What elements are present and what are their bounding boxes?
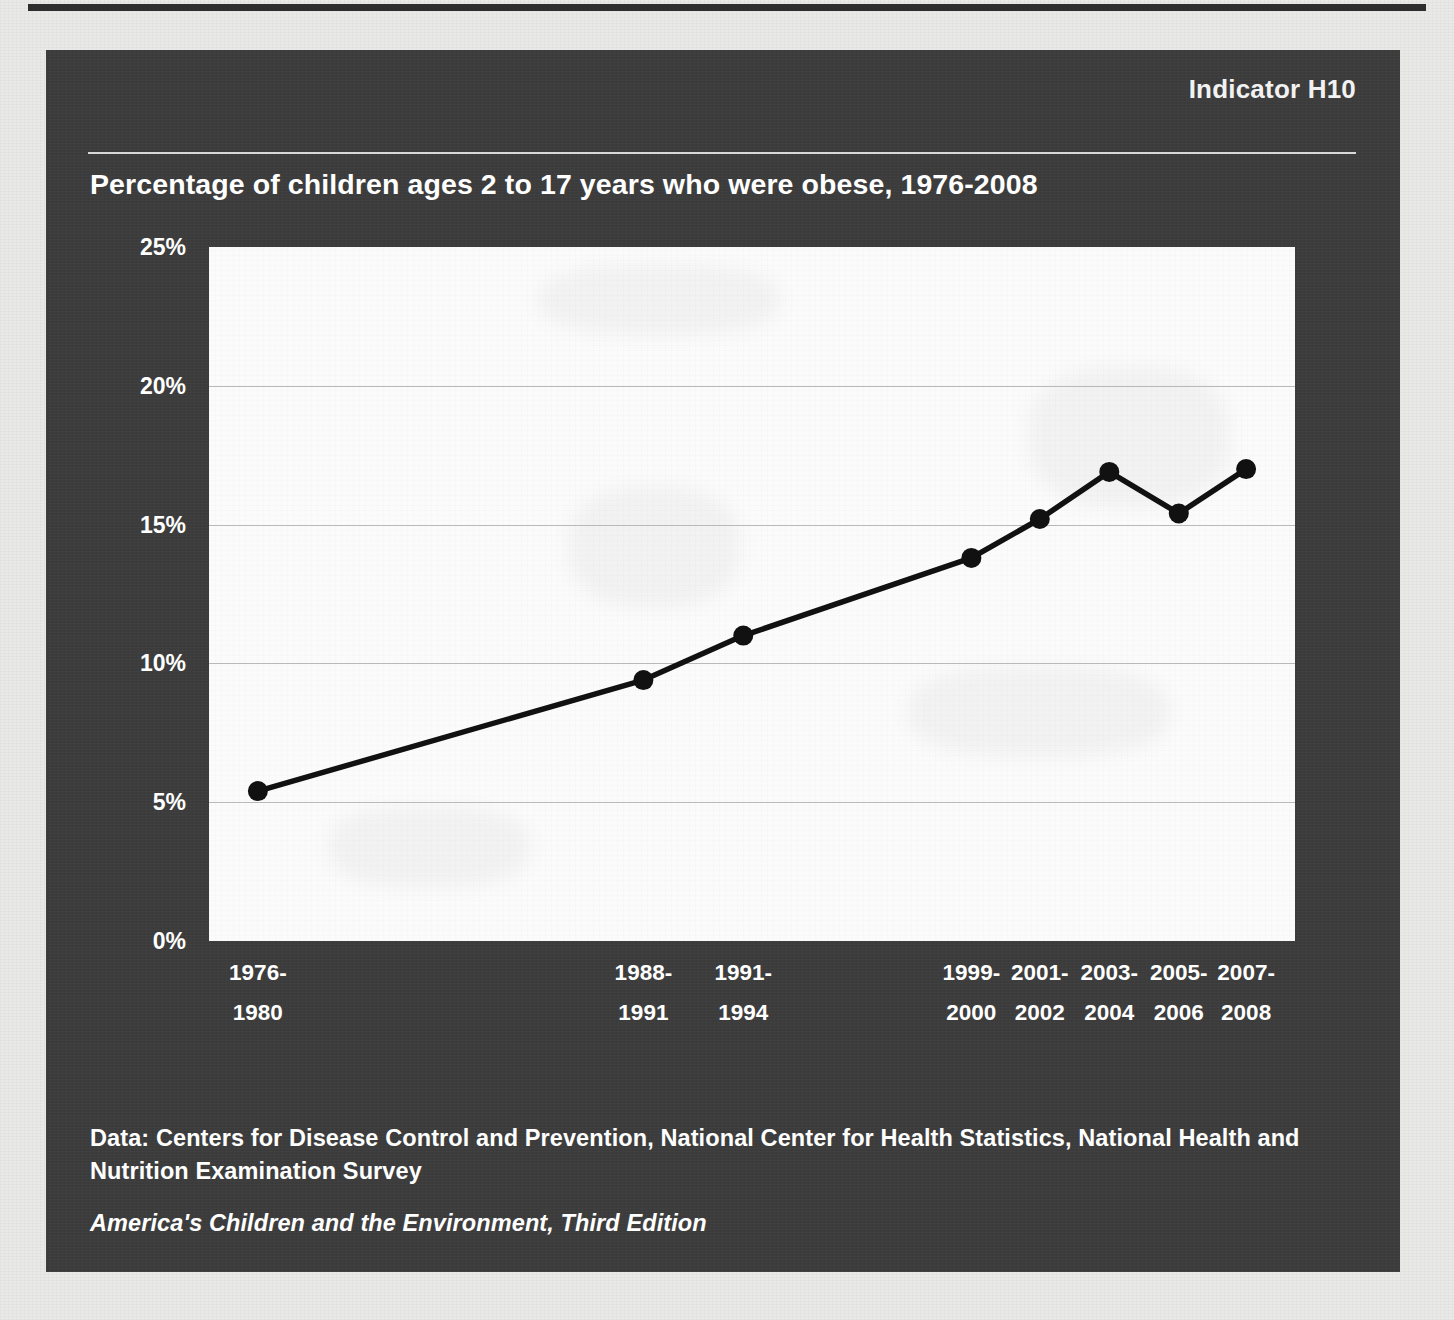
data-point-marker: 2003-2004: 16.9%	[1099, 462, 1119, 482]
x-tick-label: 1999-2000	[943, 953, 1001, 1033]
x-tick-label-line: 2006	[1150, 993, 1208, 1033]
x-tick-label: 2001-2002	[1011, 953, 1069, 1033]
x-tick-label-line: 1994	[715, 993, 773, 1033]
x-tick-label: 1976-1980	[229, 953, 287, 1033]
series-plot: 1976-1980: 5.4%1988-1991: 9.4%1991-1994:…	[209, 247, 1295, 941]
x-tick-label: 2005-2006	[1150, 953, 1208, 1033]
x-tick-label-line: 2002	[1011, 993, 1069, 1033]
data-point-marker: 2001-2002: 15.2%	[1030, 509, 1050, 529]
y-tick-label: 15%	[140, 511, 186, 538]
x-tick-label-line: 1988-	[615, 953, 673, 993]
x-tick-label-line: 2000	[943, 993, 1001, 1033]
x-tick-label-line: 2004	[1081, 993, 1139, 1033]
x-tick-label: 2003-2004	[1081, 953, 1139, 1033]
y-tick-label: 20%	[140, 372, 186, 399]
y-tick-label: 10%	[140, 650, 186, 677]
y-tick-label: 25%	[140, 234, 186, 261]
plot-area: 1976-1980: 5.4%1988-1991: 9.4%1991-1994:…	[209, 247, 1295, 941]
data-point-marker: 1991-1994: 11%	[733, 626, 753, 646]
x-tick-label: 2007-2008	[1217, 953, 1275, 1033]
data-point-marker: 2005-2006: 15.4%	[1169, 504, 1189, 524]
x-tick-label-line: 1991-	[715, 953, 773, 993]
data-point-marker: 1976-1980: 5.4%	[248, 781, 268, 801]
series-line	[258, 469, 1246, 791]
x-tick-label: 1988-1991	[615, 953, 673, 1033]
y-tick-label: 0%	[153, 928, 186, 955]
x-tick-label-line: 2005-	[1150, 953, 1208, 993]
x-tick-label-line: 2001-	[1011, 953, 1069, 993]
figure-panel: Indicator H10 Percentage of children age…	[46, 50, 1400, 1272]
x-tick-label-line: 1976-	[229, 953, 287, 993]
x-tick-label-line: 1991	[615, 993, 673, 1033]
page-top-rule	[28, 4, 1426, 11]
report-title-text: America's Children and the Environment, …	[90, 1210, 1330, 1237]
x-tick-label-line: 1980	[229, 993, 287, 1033]
data-point-marker: 2007-2008: 17%	[1236, 459, 1256, 479]
plot-wrapper: 1976-1980: 5.4%1988-1991: 9.4%1991-1994:…	[46, 50, 1400, 1272]
scanned-page: Indicator H10 Percentage of children age…	[0, 0, 1454, 1320]
x-tick-label: 1991-1994	[715, 953, 773, 1033]
x-tick-label-line: 2003-	[1081, 953, 1139, 993]
x-tick-label-line: 2007-	[1217, 953, 1275, 993]
data-source-text: Data: Centers for Disease Control and Pr…	[90, 1122, 1330, 1188]
y-tick-label: 5%	[153, 789, 186, 816]
data-point-marker: 1988-1991: 9.4%	[633, 670, 653, 690]
x-tick-label-line: 2008	[1217, 993, 1275, 1033]
x-tick-label-line: 1999-	[943, 953, 1001, 993]
data-point-marker: 1999-2000: 13.8%	[961, 548, 981, 568]
figure-footer: Data: Centers for Disease Control and Pr…	[90, 1122, 1330, 1237]
